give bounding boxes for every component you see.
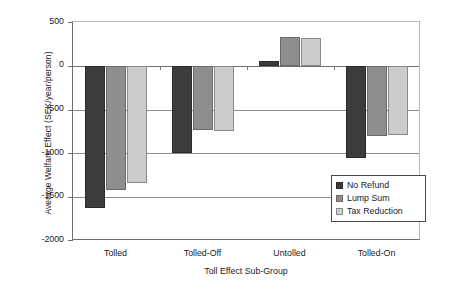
legend-swatch-tax-reduction: [336, 208, 343, 215]
legend-swatch-no-refund: [336, 182, 343, 189]
bar-chart-figure: Average Welfare Effect (SEK/year/person)…: [0, 0, 450, 294]
legend-label-tax-reduction: Tax Reduction: [347, 207, 403, 216]
legend-label-lump-sum: Lump Sum: [347, 194, 390, 203]
bar-tolled-on-tax-reduction: [388, 66, 408, 136]
bar-tolled-off-tax-reduction: [214, 66, 234, 131]
bar-untolled-lump-sum: [280, 37, 300, 66]
y-tick-label-3: -1000: [18, 148, 64, 157]
bar-tolled-on-lump-sum: [367, 66, 387, 137]
y-tick-mark-500: [68, 22, 73, 23]
legend-label-no-refund: No Refund: [347, 181, 389, 190]
y-tick-mark-m500: [68, 110, 73, 111]
bar-tolled-lump-sum: [106, 66, 126, 190]
y-tick-label-0: 500: [18, 17, 64, 26]
y-tick-mark-m2000: [68, 240, 73, 241]
y-tick-label-4: -1500: [18, 191, 64, 200]
bar-untolled-no-refund: [259, 61, 279, 65]
chart-legend: No Refund Lump Sum Tax Reduction: [331, 175, 426, 222]
x-tick-label-untolled: Untolled: [246, 248, 333, 258]
y-tick-label-1: 0: [18, 60, 64, 69]
x-tick-label-tolled: Tolled: [72, 248, 159, 258]
x-tick-mark-1: [160, 66, 161, 70]
y-axis-title: Average Welfare Effect (SEK/year/person): [43, 18, 53, 248]
bar-tolled-on-no-refund: [346, 66, 366, 158]
y-tick-label-5: -2000: [18, 235, 64, 244]
x-tick-mark-3: [334, 66, 335, 70]
legend-item-lump-sum: Lump Sum: [336, 192, 421, 205]
bar-tolled-off-no-refund: [172, 66, 192, 154]
legend-swatch-lump-sum: [336, 195, 343, 202]
y-tick-mark-m1000: [68, 153, 73, 154]
legend-item-no-refund: No Refund: [336, 179, 421, 192]
bar-untolled-tax-reduction: [301, 38, 321, 66]
y-tick-mark-m1500: [68, 197, 73, 198]
bar-tolled-off-lump-sum: [193, 66, 213, 130]
bar-tolled-tax-reduction: [127, 66, 147, 183]
x-axis-title: Toll Effect Sub-Group: [72, 266, 420, 276]
y-tick-label-2: -500: [18, 104, 64, 113]
y-tick-mark-0: [68, 66, 73, 67]
x-tick-label-tolled-on: Tolled-On: [333, 248, 420, 258]
bar-tolled-no-refund: [85, 66, 105, 208]
legend-item-tax-reduction: Tax Reduction: [336, 205, 421, 218]
x-tick-mark-2: [247, 66, 248, 70]
x-tick-label-tolled-off: Tolled-Off: [159, 248, 246, 258]
